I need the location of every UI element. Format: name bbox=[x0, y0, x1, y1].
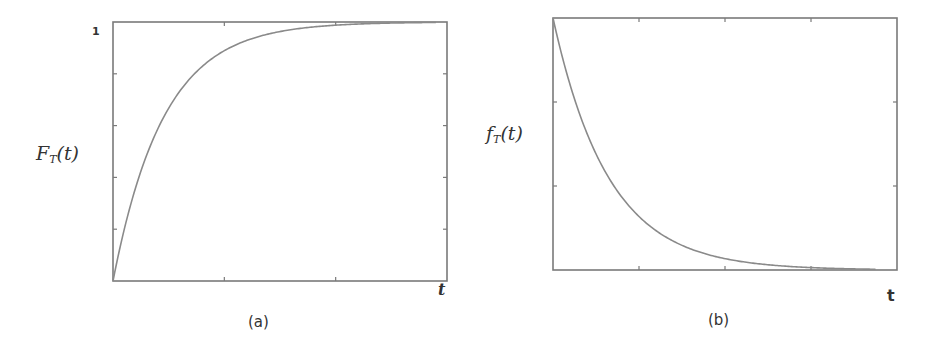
chart-b-pdf-curve bbox=[553, 18, 876, 269]
chart-b-ylabel-arg: (t) bbox=[500, 122, 522, 144]
chart-a-caption: (a) bbox=[248, 313, 269, 331]
chart-a-frame bbox=[113, 22, 447, 281]
chart-a-ylabel-main: F bbox=[36, 142, 49, 164]
chart-a-x-axis-label: t bbox=[438, 280, 445, 299]
chart-a-ylabel-arg: (t) bbox=[57, 142, 79, 164]
chart-b-pdf bbox=[553, 18, 897, 270]
chart-a-ticks bbox=[113, 22, 447, 281]
chart-a-cdf-curve bbox=[113, 22, 436, 281]
chart-b-ylabel-main: f bbox=[486, 122, 493, 144]
chart-b-y-axis-label: fT(t) bbox=[486, 122, 523, 146]
chart-a-cdf bbox=[113, 22, 447, 281]
chart-b-x-axis-label: t bbox=[887, 286, 895, 305]
chart-b-caption: (b) bbox=[708, 311, 729, 329]
chart-a-ytick-label-1: 1 bbox=[92, 25, 100, 38]
chart-b-frame bbox=[553, 18, 897, 270]
chart-a-ylabel-sub: T bbox=[49, 153, 56, 166]
chart-b-ticks bbox=[553, 18, 897, 270]
chart-a-y-axis-label: FT(t) bbox=[36, 142, 79, 166]
figure-canvas bbox=[0, 0, 935, 350]
